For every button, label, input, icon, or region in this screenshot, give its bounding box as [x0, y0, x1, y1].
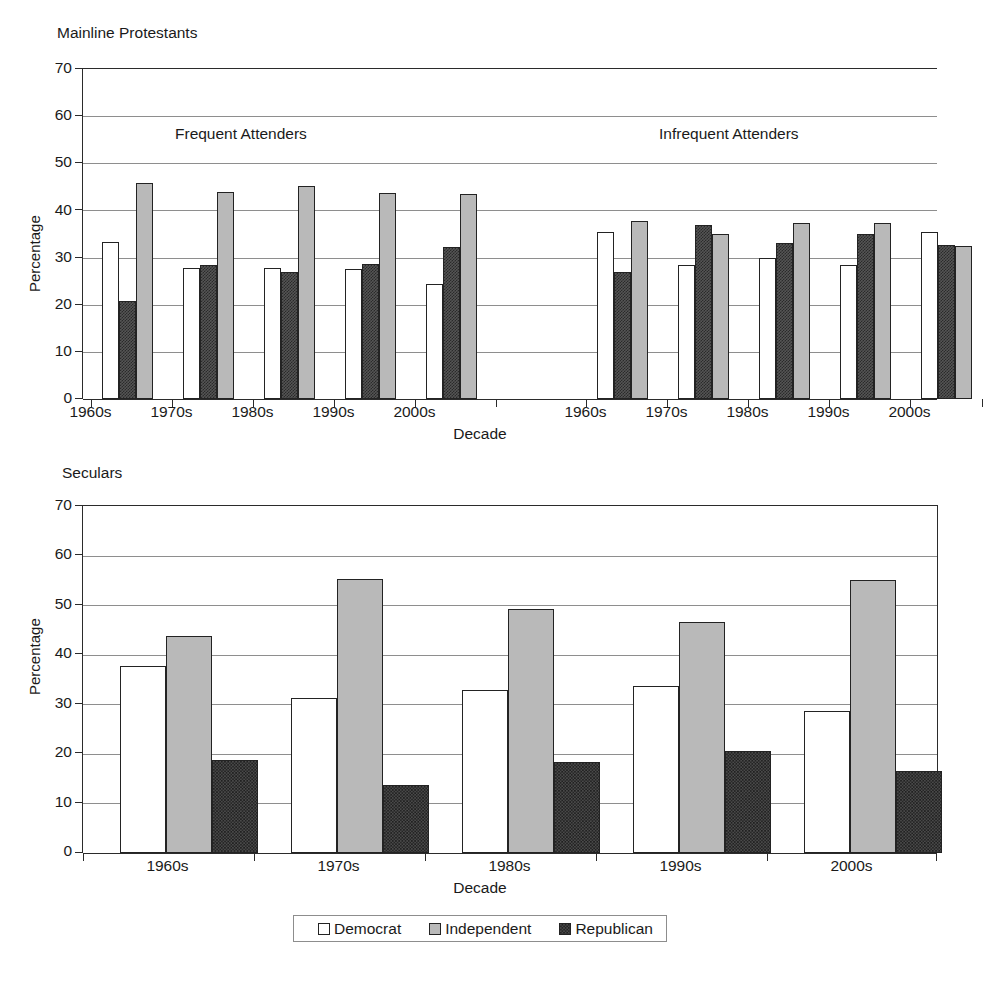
y-tick-mark	[75, 115, 82, 116]
x-tick-label-seculars-1980s: 1980s	[424, 857, 595, 875]
bar-frequent-1970s-independent	[200, 265, 217, 399]
annotation-infrequent-attenders: Infrequent Attenders	[659, 125, 799, 143]
y-tick-label: 40	[42, 201, 72, 219]
bar-seculars-1970s-republican	[383, 785, 429, 853]
bar-frequent-1980s-democrat	[264, 268, 281, 399]
bar-seculars-1990s-republican	[725, 751, 771, 853]
y-tick-mark	[75, 68, 82, 69]
bar-frequent-2000s-independent	[443, 247, 460, 399]
y-tick-mark	[75, 802, 82, 803]
x-tick-label-infrequent-1990s: 1990s	[788, 403, 869, 421]
y-tick-label: 50	[42, 153, 72, 171]
y-tick-label: 40	[42, 644, 72, 662]
bar-infrequent-1970s-republican	[712, 234, 729, 400]
bar-frequent-1960s-democrat	[102, 242, 119, 399]
bar-infrequent-1980s-republican	[793, 223, 810, 399]
x-tick-label-infrequent-1980s: 1980s	[707, 403, 788, 421]
x-axis-line-bottom	[83, 853, 937, 854]
x-tick-label-seculars-2000s: 2000s	[766, 857, 937, 875]
legend-item-republican[interactable]: Republican	[559, 920, 653, 938]
y-tick-label: 70	[42, 59, 72, 77]
bar-infrequent-1960s-republican	[631, 221, 648, 399]
y-tick-mark	[75, 505, 82, 506]
panel-mainline-protestants: Mainline Protestants Percentage 70 60 50…	[0, 0, 960, 455]
bar-frequent-2000s-republican	[460, 194, 477, 399]
y-tick-label: 20	[42, 743, 72, 761]
x-tick-label-frequent-1990s: 1990s	[293, 403, 374, 421]
bar-frequent-1990s-democrat	[345, 269, 362, 399]
bar-frequent-1980s-republican	[298, 186, 315, 399]
y-tick-mark	[75, 703, 82, 704]
bar-infrequent-1960s-democrat	[597, 232, 614, 399]
bar-seculars-1990s-democrat	[633, 686, 679, 853]
bar-infrequent-2000s-democrat	[921, 232, 938, 399]
y-tick-label: 0	[42, 842, 72, 860]
x-tick-label-infrequent-1970s: 1970s	[626, 403, 707, 421]
bar-seculars-1980s-democrat	[462, 690, 508, 853]
x-tick-label-frequent-1980s: 1980s	[212, 403, 293, 421]
bar-seculars-1960s-independent	[166, 636, 212, 853]
y-tick-label: 60	[42, 106, 72, 124]
bar-infrequent-1990s-democrat	[840, 265, 857, 399]
y-tick-label: 20	[42, 295, 72, 313]
y-tick-mark	[75, 653, 82, 654]
x-axis-line-top	[83, 399, 937, 400]
bar-seculars-2000s-independent	[850, 580, 896, 853]
legend-swatch-republican-icon	[559, 923, 571, 935]
x-tick-label-frequent-1960s: 1960s	[50, 403, 131, 421]
x-axis-label-bottom: Decade	[420, 879, 540, 897]
bar-seculars-2000s-republican	[896, 771, 942, 853]
bar-frequent-1970s-republican	[217, 192, 234, 399]
bar-infrequent-2000s-republican	[955, 246, 972, 399]
legend-swatch-independent-icon	[429, 923, 441, 935]
bar-frequent-1980s-independent	[281, 272, 298, 399]
panel-title-mainline: Mainline Protestants	[57, 24, 197, 42]
y-tick-label: 60	[42, 545, 72, 563]
annotation-frequent-attenders: Frequent Attenders	[175, 125, 307, 143]
bar-infrequent-1990s-republican	[874, 223, 891, 399]
legend-label-democrat: Democrat	[334, 920, 401, 938]
bar-frequent-2000s-democrat	[426, 284, 443, 399]
legend-item-independent[interactable]: Independent	[429, 920, 531, 938]
x-tick-label-seculars-1990s: 1990s	[595, 857, 766, 875]
chart-legend: Democrat Independent Republican	[293, 915, 667, 942]
bar-infrequent-1970s-democrat	[678, 265, 695, 399]
legend-item-democrat[interactable]: Democrat	[318, 920, 401, 938]
panel-seculars: Seculars Percentage 70 60 50 40 30 20 10…	[0, 455, 960, 982]
x-tick-label-infrequent-1960s: 1960s	[545, 403, 626, 421]
x-tick-label-seculars-1960s: 1960s	[82, 857, 253, 875]
bar-frequent-1970s-democrat	[183, 268, 200, 399]
y-tick-label: 30	[42, 248, 72, 266]
x-tick-mark	[496, 399, 497, 407]
legend-label-independent: Independent	[445, 920, 531, 938]
y-tick-mark	[75, 162, 82, 163]
bar-seculars-1980s-independent	[508, 609, 554, 853]
plot-area-top: Frequent Attenders Infrequent Attenders	[82, 68, 937, 399]
y-tick-mark	[75, 604, 82, 605]
bar-seculars-1970s-democrat	[291, 698, 337, 853]
x-tick-label-frequent-2000s: 2000s	[374, 403, 455, 421]
y-tick-label: 70	[42, 496, 72, 514]
y-tick-mark	[75, 398, 82, 399]
legend-swatch-democrat-icon	[318, 923, 330, 935]
y-tick-mark	[75, 209, 82, 210]
bar-infrequent-2000s-independent	[938, 245, 955, 399]
bar-infrequent-1960s-independent	[614, 272, 631, 399]
gridline	[83, 556, 937, 557]
y-tick-mark	[75, 351, 82, 352]
plot-area-bottom	[82, 505, 938, 853]
gridline	[83, 116, 937, 117]
bar-frequent-1990s-independent	[362, 264, 379, 399]
y-tick-mark	[75, 257, 82, 258]
y-tick-mark	[75, 304, 82, 305]
y-tick-mark	[75, 852, 82, 853]
bar-infrequent-1980s-democrat	[759, 258, 776, 399]
y-tick-mark	[75, 752, 82, 753]
bar-frequent-1960s-independent	[119, 301, 136, 399]
bar-seculars-1980s-republican	[554, 762, 600, 853]
gridline	[83, 163, 937, 164]
x-tick-label-infrequent-2000s: 2000s	[869, 403, 950, 421]
y-tick-label: 30	[42, 694, 72, 712]
y-tick-label: 10	[42, 793, 72, 811]
